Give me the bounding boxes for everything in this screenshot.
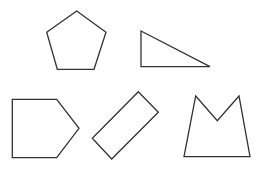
- house-pentagon: [12, 99, 79, 157]
- m-shape-pentagon: [184, 96, 250, 157]
- right-triangle: [141, 31, 210, 67]
- regular-pentagon: [47, 11, 106, 69]
- rotated-rectangle: [92, 92, 158, 159]
- shapes-diagram: [0, 0, 266, 170]
